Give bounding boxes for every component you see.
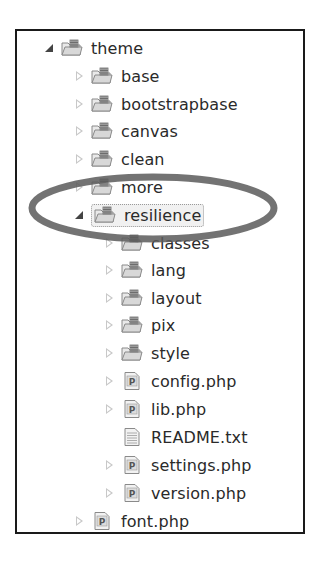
collapsed-arrow-icon[interactable] [103,237,115,249]
tree-item-resilience[interactable]: resilience [73,202,204,228]
php-file-icon [121,400,143,418]
package-folder-icon [121,316,143,334]
collapsed-arrow-icon[interactable] [103,319,115,331]
package-folder-icon [91,178,113,196]
tree-item-settings-php[interactable]: settings.php [103,452,252,478]
tree-item-label: README.txt [151,428,248,447]
tree-item-bootstrapbase[interactable]: bootstrapbase [73,91,238,117]
tree-item-label: theme [91,39,143,58]
tree-item-label: bootstrapbase [121,95,238,114]
collapsed-arrow-icon[interactable] [73,181,85,193]
tree-item-version-php[interactable]: version.php [103,480,246,506]
tree-item-base[interactable]: base [73,63,160,89]
tree-item-label: lang [151,261,186,280]
package-folder-icon [91,95,113,113]
expanded-arrow-icon[interactable] [73,209,85,221]
collapsed-arrow-icon[interactable] [73,515,85,527]
tree-item-config-php[interactable]: config.php [103,368,237,394]
collapsed-arrow-icon[interactable] [73,70,85,82]
file-tree: theme base bootstrapbase canvas clean mo… [17,31,303,532]
collapsed-arrow-icon[interactable] [103,347,115,359]
tree-item-label: more [121,178,163,197]
tree-item-readme-txt[interactable]: README.txt [103,424,248,450]
collapsed-arrow-icon[interactable] [103,375,115,387]
package-folder-icon [121,234,143,252]
selected-item-highlight: resilience [91,204,204,227]
package-folder-icon [61,39,83,57]
tree-item-canvas[interactable]: canvas [73,118,178,144]
collapsed-arrow-icon[interactable] [73,153,85,165]
tree-item-more[interactable]: more [73,174,163,200]
tree-item-font-php[interactable]: font.php [73,508,189,534]
package-folder-icon [121,261,143,279]
package-folder-icon [91,122,113,140]
tree-item-label: classes [151,234,210,253]
collapsed-arrow-icon[interactable] [103,403,115,415]
collapsed-arrow-icon[interactable] [73,125,85,137]
php-file-icon [121,484,143,502]
collapsed-arrow-icon[interactable] [103,292,115,304]
package-folder-icon [121,344,143,362]
tree-item-label: config.php [151,372,237,391]
tree-item-clean[interactable]: clean [73,146,165,172]
tree-item-label: lib.php [151,400,206,419]
tree-item-label: version.php [151,484,246,503]
package-folder-icon [91,67,113,85]
php-file-icon [91,512,113,530]
tree-item-label: settings.php [151,456,252,475]
tree-item-lib-php[interactable]: lib.php [103,396,206,422]
tree-item-theme[interactable]: theme [43,35,143,61]
tree-item-label: style [151,344,190,363]
tree-item-label: base [121,67,160,86]
tree-item-layout[interactable]: layout [103,285,202,311]
package-folder-icon [91,150,113,168]
tree-item-label: clean [121,150,165,169]
tree-item-label: resilience [124,206,201,225]
package-folder-icon [94,206,116,224]
package-folder-icon [121,289,143,307]
php-file-icon [121,456,143,474]
collapsed-arrow-icon[interactable] [73,98,85,110]
text-file-icon [121,428,143,446]
tree-item-classes[interactable]: classes [103,230,210,256]
project-explorer-panel: theme base bootstrapbase canvas clean mo… [15,29,305,534]
collapsed-arrow-icon[interactable] [103,264,115,276]
tree-item-pix[interactable]: pix [103,312,175,338]
collapsed-arrow-icon[interactable] [103,487,115,499]
tree-item-label: canvas [121,122,178,141]
collapsed-arrow-icon[interactable] [103,459,115,471]
tree-item-label: pix [151,316,175,335]
php-file-icon [121,372,143,390]
tree-item-style[interactable]: style [103,340,190,366]
tree-item-label: layout [151,289,202,308]
tree-item-label: font.php [121,512,189,531]
expanded-arrow-icon[interactable] [43,42,55,54]
tree-item-lang[interactable]: lang [103,257,186,283]
